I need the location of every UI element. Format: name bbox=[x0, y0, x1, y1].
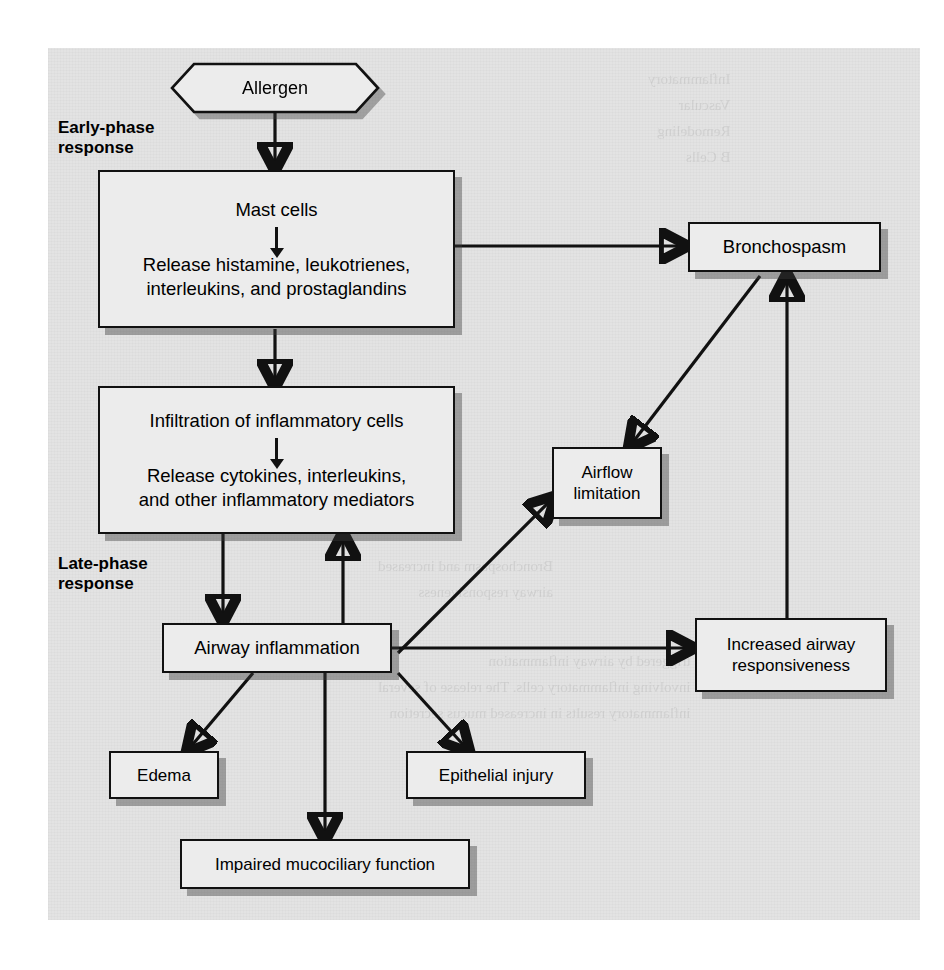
node-mast-cells-line3: interleukins, and prostaglandins bbox=[146, 277, 406, 301]
edge-bronchospasm-to-airflow-limitation bbox=[630, 276, 760, 446]
node-impaired-mucociliary-function[interactable]: Impaired mucociliary function bbox=[180, 839, 470, 889]
early-phase-response-label: Early-phase response bbox=[58, 118, 154, 158]
node-infiltration[interactable]: Infiltration of inflammatory cells Relea… bbox=[98, 386, 455, 534]
node-infiltration-line1: Infiltration of inflammatory cells bbox=[150, 409, 404, 433]
node-impaired-mucociliary-function-label: Impaired mucociliary function bbox=[215, 854, 435, 875]
node-epithelial-injury-label: Epithelial injury bbox=[439, 765, 553, 786]
node-bronchospasm-label: Bronchospasm bbox=[723, 235, 846, 259]
down-arrow-icon bbox=[275, 438, 278, 460]
figure-panel: Inflammatory Vascular Remodeling B Cells… bbox=[48, 48, 920, 920]
edge-airway-inflammation-to-epithelial-injury bbox=[398, 673, 468, 750]
edge-airway-inflammation-to-edema bbox=[188, 673, 253, 750]
node-allergen[interactable]: Allergen bbox=[170, 62, 380, 114]
node-mast-cells-line1: Mast cells bbox=[235, 198, 317, 222]
node-allergen-label: Allergen bbox=[170, 62, 380, 114]
late-phase-response-label: Late-phase response bbox=[58, 554, 148, 594]
node-edema[interactable]: Edema bbox=[109, 751, 219, 799]
node-increased-airway-responsiveness-line2: responsiveness bbox=[732, 655, 850, 676]
node-increased-airway-responsiveness[interactable]: Increased airway responsiveness bbox=[695, 618, 887, 692]
node-airflow-limitation-line1: Airflow bbox=[581, 462, 632, 483]
node-bronchospasm[interactable]: Bronchospasm bbox=[688, 222, 881, 272]
node-airflow-limitation[interactable]: Airflow limitation bbox=[552, 447, 662, 519]
figure-page: Inflammatory Vascular Remodeling B Cells… bbox=[0, 0, 944, 970]
node-airflow-limitation-line2: limitation bbox=[573, 483, 640, 504]
node-epithelial-injury[interactable]: Epithelial injury bbox=[406, 751, 586, 799]
node-airway-inflammation[interactable]: Airway inflammation bbox=[162, 623, 392, 673]
node-mast-cells[interactable]: Mast cells Release histamine, leukotrien… bbox=[98, 170, 455, 328]
node-infiltration-line3: and other inflammatory mediators bbox=[139, 488, 415, 512]
down-arrow-icon bbox=[275, 227, 278, 249]
node-airway-inflammation-label: Airway inflammation bbox=[194, 636, 360, 660]
node-increased-airway-responsiveness-line1: Increased airway bbox=[727, 634, 856, 655]
node-edema-label: Edema bbox=[137, 765, 191, 786]
